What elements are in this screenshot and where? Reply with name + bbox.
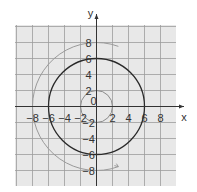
- y-tick-label: −2: [82, 117, 95, 129]
- y-tick-label: 6: [85, 53, 91, 65]
- x-tick-label: −4: [58, 112, 71, 124]
- x-tick-label: −6: [42, 112, 55, 124]
- x-tick-label: −8: [26, 112, 39, 124]
- x-tick-label: 8: [157, 112, 163, 124]
- x-tick-label: 2: [109, 112, 115, 124]
- y-tick-label: −8: [82, 165, 95, 177]
- x-tick-label: 4: [125, 112, 131, 124]
- x-axis-label: x: [181, 111, 187, 123]
- x-tick-label: 6: [141, 112, 147, 124]
- x-axis-arrow-icon: [179, 105, 184, 109]
- origin-label: 0: [90, 95, 96, 107]
- y-tick-label: −6: [82, 149, 95, 161]
- y-axis-arrow-icon: [95, 14, 99, 19]
- y-tick-label: −4: [82, 133, 95, 145]
- y-tick-label: 4: [85, 69, 91, 81]
- y-axis-label: y: [88, 7, 94, 19]
- spiral-chart: −8−6−4−224688642−2−4−6−80xy: [0, 0, 197, 192]
- y-tick-label: 8: [85, 37, 91, 49]
